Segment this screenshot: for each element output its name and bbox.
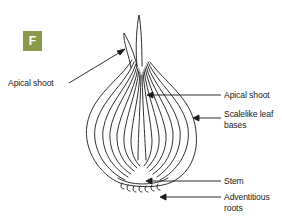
label-apical-shoot-right: Apical shoot	[224, 90, 270, 101]
leader-apical-left	[69, 51, 122, 83]
apical-shoot-tall	[136, 15, 142, 66]
label-adventitious-roots-2: roots	[224, 203, 243, 214]
label-apical-shoot-left: Apical shoot	[8, 78, 54, 89]
bulb-outline	[86, 60, 196, 187]
label-stem: Stem	[224, 176, 244, 187]
label-adventitious-roots-1: Adventitious	[224, 192, 270, 203]
label-scalelike-leaf-bases-1: Scalelike leaf	[224, 109, 273, 120]
label-scalelike-leaf-bases-2: bases	[224, 120, 246, 131]
